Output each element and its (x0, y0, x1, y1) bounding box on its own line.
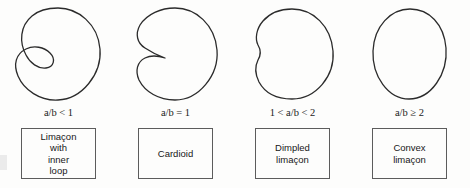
condition-label-2: a/b = 1 (117, 107, 234, 119)
panel-cardioid: a/b = 1 Cardioid (117, 0, 234, 188)
name-box-label-1: Limaçon with inner loop (41, 131, 77, 177)
condition-label-4: a/b ≥ 2 (351, 107, 468, 119)
condition-text-4: a/b ≥ 2 (395, 107, 424, 118)
curve-convex-limacon (351, 2, 468, 106)
condition-text-1: a/b < 1 (44, 107, 73, 118)
name-box-limacon-with-inner-loop: Limaçon with inner loop (21, 128, 96, 179)
condition-label-1: a/b < 1 (0, 107, 117, 119)
curve-dimpled-limacon (234, 2, 351, 106)
name-box-convex-limacon: Convex limaçon (372, 128, 447, 179)
limacon-classification-figure: a/b < 1 Limaçon with inner loop a/b = 1 … (0, 0, 470, 188)
panel-dimpled-limacon: 1 < a/b < 2 Dimpled limaçon (234, 0, 351, 188)
curve-limacon-with-inner-loop (0, 2, 117, 106)
name-box-label-3: Dimpled limaçon (275, 142, 310, 165)
name-box-label-2: Cardioid (158, 148, 193, 160)
panel-limacon-with-inner-loop: a/b < 1 Limaçon with inner loop (0, 0, 117, 188)
name-box-dimpled-limacon: Dimpled limaçon (255, 128, 330, 179)
condition-label-3: 1 < a/b < 2 (234, 107, 351, 119)
panel-convex-limacon: a/b ≥ 2 Convex limaçon (351, 0, 468, 188)
curve-cardioid (117, 2, 234, 106)
condition-text-2: a/b = 1 (161, 107, 190, 118)
condition-text-3: 1 < a/b < 2 (270, 107, 316, 118)
name-box-cardioid: Cardioid (138, 128, 213, 179)
name-box-label-4: Convex limaçon (393, 142, 426, 165)
